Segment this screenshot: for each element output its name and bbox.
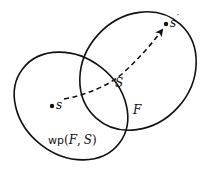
start-state-dot <box>50 104 54 108</box>
end-state-label: s <box>170 16 176 30</box>
wp-region-label: wp(F,S) <box>48 133 97 147</box>
diagram-canvas: s s ′ S F wp(F,S) <box>0 0 207 177</box>
path-label-S: S <box>115 76 123 90</box>
start-state-label: s <box>56 98 62 112</box>
end-state-dot <box>164 22 168 26</box>
f-region-ellipse <box>56 0 207 154</box>
wp-region-ellipse <box>0 30 149 177</box>
f-region-label: F <box>132 103 142 117</box>
transition-path <box>64 30 162 99</box>
end-state-prime: ′ <box>177 13 179 23</box>
